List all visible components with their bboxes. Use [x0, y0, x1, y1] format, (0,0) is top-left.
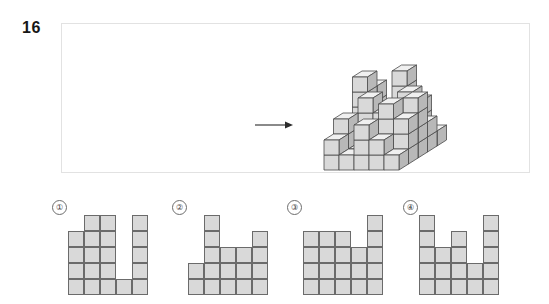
grid-cell — [319, 263, 335, 279]
grid-cell — [84, 231, 100, 247]
grid-cell — [419, 263, 435, 279]
grid-cell — [100, 231, 116, 247]
grid-cell — [303, 231, 319, 247]
option-1-label: ① — [52, 200, 67, 215]
grid-cell — [204, 247, 220, 263]
grid-cell — [451, 247, 467, 263]
grid-cell — [236, 263, 252, 279]
grid-cell — [351, 247, 367, 263]
grid-cell — [335, 279, 351, 295]
grid-cell — [367, 231, 383, 247]
grid-cell — [252, 247, 268, 263]
grid-cell — [483, 263, 499, 279]
grid-cell — [236, 279, 252, 295]
grid-cell — [252, 263, 268, 279]
grid-cell — [483, 231, 499, 247]
grid-cell — [367, 263, 383, 279]
grid-cell — [132, 215, 148, 231]
grid-cell — [419, 231, 435, 247]
grid-cell — [319, 279, 335, 295]
grid-cell — [467, 263, 483, 279]
grid-cell — [335, 231, 351, 247]
grid-cell — [68, 247, 84, 263]
grid-cell — [483, 279, 499, 295]
grid-cell — [84, 279, 100, 295]
option-4-label: ④ — [403, 200, 418, 215]
option-4[interactable]: ④ — [399, 196, 532, 300]
grid-cell — [252, 231, 268, 247]
grid-cell — [419, 247, 435, 263]
grid-cell — [435, 263, 451, 279]
grid-cell — [252, 279, 268, 295]
grid-cell — [204, 279, 220, 295]
grid-cell — [84, 247, 100, 263]
grid-cell — [351, 279, 367, 295]
grid-cell — [319, 247, 335, 263]
grid-cell — [335, 247, 351, 263]
grid-cell — [204, 215, 220, 231]
grid-cell — [367, 279, 383, 295]
grid-cell — [204, 263, 220, 279]
grid-cell — [132, 279, 148, 295]
option-4-grid — [419, 215, 515, 295]
grid-cell — [100, 215, 116, 231]
grid-cell — [303, 279, 319, 295]
grid-cell — [236, 247, 252, 263]
grid-cell — [84, 215, 100, 231]
grid-cell — [132, 231, 148, 247]
option-3[interactable]: ③ — [283, 196, 416, 300]
option-2-grid — [188, 215, 284, 295]
grid-cell — [467, 279, 483, 295]
grid-cell — [204, 231, 220, 247]
grid-cell — [84, 263, 100, 279]
question-number: 16 — [22, 19, 41, 37]
stimulus-panel — [61, 23, 530, 173]
grid-cell — [303, 263, 319, 279]
answer-options: ① ② ③ ④ — [0, 196, 549, 302]
option-2-label: ② — [172, 200, 187, 215]
grid-cell — [435, 279, 451, 295]
grid-cell — [419, 215, 435, 231]
grid-cell — [220, 279, 236, 295]
grid-cell — [220, 263, 236, 279]
question-page: 16 ① ② ③ ④ — [0, 0, 549, 304]
grid-cell — [419, 279, 435, 295]
grid-cell — [68, 279, 84, 295]
isometric-cube-figure — [284, 52, 454, 197]
grid-cell — [68, 231, 84, 247]
grid-cell — [132, 247, 148, 263]
grid-cell — [451, 231, 467, 247]
grid-cell — [451, 279, 467, 295]
option-3-label: ③ — [287, 200, 302, 215]
grid-cell — [435, 247, 451, 263]
grid-cell — [188, 279, 204, 295]
grid-cell — [220, 247, 236, 263]
grid-cell — [100, 279, 116, 295]
grid-cell — [451, 263, 467, 279]
grid-cell — [483, 247, 499, 263]
grid-cell — [483, 215, 499, 231]
grid-cell — [367, 215, 383, 231]
grid-cell — [351, 263, 367, 279]
grid-cell — [116, 279, 132, 295]
grid-cell — [100, 263, 116, 279]
option-3-grid — [303, 215, 399, 295]
grid-cell — [100, 247, 116, 263]
grid-cell — [335, 263, 351, 279]
grid-cell — [303, 247, 319, 263]
grid-cell — [68, 263, 84, 279]
grid-cell — [367, 247, 383, 263]
grid-cell — [319, 231, 335, 247]
grid-cell — [188, 263, 204, 279]
grid-cell — [132, 263, 148, 279]
option-1[interactable]: ① — [48, 196, 181, 300]
option-2[interactable]: ② — [168, 196, 301, 300]
option-1-grid — [68, 215, 164, 295]
